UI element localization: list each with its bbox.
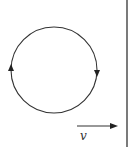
diagram-canvas: v xyxy=(0,0,133,147)
loop-arrow-down-icon xyxy=(94,70,100,77)
current-loop xyxy=(11,27,97,113)
velocity-arrow-head-icon xyxy=(110,123,118,129)
velocity-label: v xyxy=(80,129,87,143)
loop-arrow-up-icon xyxy=(8,64,14,71)
